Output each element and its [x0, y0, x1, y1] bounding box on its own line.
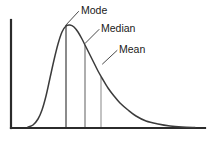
distribution-chart-svg: Mode Median Mean [0, 0, 217, 141]
label-median: Median [101, 22, 136, 34]
distribution-figure: Mode Median Mean [0, 0, 217, 141]
label-mean: Mean [119, 43, 145, 55]
label-mode: Mode [81, 4, 107, 16]
